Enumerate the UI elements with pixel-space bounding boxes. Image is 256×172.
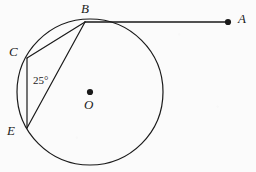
label-point-c: C: [9, 45, 18, 58]
label-angle-25-degrees: 25°: [33, 75, 48, 86]
geometry-diagram: A B C E O 25°: [0, 0, 256, 172]
label-center-o: O: [84, 98, 93, 111]
geometry-canvas: [0, 0, 256, 172]
label-point-a: A: [238, 12, 246, 25]
label-point-e: E: [7, 124, 15, 137]
point-a-dot: [225, 19, 231, 25]
label-point-b: B: [81, 2, 89, 15]
center-point-dot: [87, 89, 93, 95]
